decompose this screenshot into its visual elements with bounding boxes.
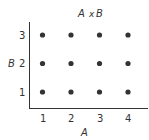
y-axis-label: B — [8, 58, 15, 69]
x-tick-1: 1 — [40, 113, 46, 124]
data-point — [40, 89, 45, 94]
data-point — [97, 61, 102, 66]
data-point — [68, 89, 73, 94]
x-tick-2: 2 — [68, 113, 74, 124]
cartesian-product-plot: A x B 3 2 1 B 1 2 3 4 A — [0, 0, 149, 140]
data-points — [40, 32, 131, 94]
data-point — [125, 89, 130, 94]
data-point — [97, 89, 102, 94]
x-tick-4: 4 — [125, 113, 131, 124]
y-tick-labels: 3 2 1 — [19, 30, 25, 98]
title-cross: x — [88, 9, 95, 19]
y-tick-2: 2 — [19, 58, 25, 69]
data-point — [125, 61, 130, 66]
y-tick-3: 3 — [19, 30, 25, 41]
data-point — [40, 61, 45, 66]
title-set-a: A — [77, 8, 85, 19]
data-point — [40, 32, 45, 37]
data-point — [125, 32, 130, 37]
x-axis-label: A — [80, 127, 88, 138]
y-tick-1: 1 — [19, 87, 25, 98]
data-point — [68, 32, 73, 37]
x-tick-labels: 1 2 3 4 — [40, 113, 131, 124]
title-set-b: B — [96, 8, 103, 19]
x-tick-3: 3 — [97, 113, 103, 124]
data-point — [97, 32, 102, 37]
data-point — [68, 61, 73, 66]
chart-title: A x B — [77, 8, 103, 19]
